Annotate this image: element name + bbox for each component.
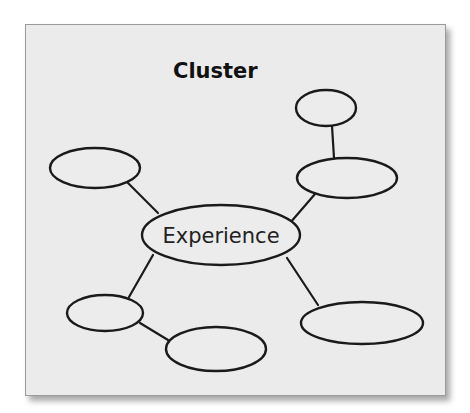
diagram-title: Cluster [173,59,258,83]
edge-center-bottom-right [287,258,318,305]
node-bottom-left [67,295,143,331]
edge-center-bottom-left [129,255,153,297]
edge-right-middle-top-right [332,126,334,158]
node-top-right-small [296,90,356,126]
edge-center-right-middle [290,194,315,223]
node-bottom-middle [166,327,266,371]
center-node-label: Experience [162,224,279,248]
edge-bottom-left-bottom-middle [140,323,168,340]
node-left-top [50,148,140,188]
node-bottom-right [301,302,423,344]
cluster-diagram: Cluster Experience [0,0,470,413]
node-right-middle [297,158,397,198]
edge-center-left-top [128,183,158,213]
